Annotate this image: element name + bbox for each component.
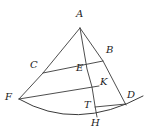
vertex-label-d: D xyxy=(127,90,135,100)
geometry-figure: A B C E K F D T H xyxy=(0,0,148,139)
geometry-canvas xyxy=(0,0,148,139)
vertex-label-f: F xyxy=(5,92,12,102)
vertex-label-h: H xyxy=(91,118,100,128)
arc-f-h-right xyxy=(19,96,143,115)
vertex-label-c: C xyxy=(30,60,38,70)
segment-a-c-f xyxy=(19,28,80,99)
vertex-label-a: A xyxy=(76,9,83,19)
vertex-label-e: E xyxy=(76,63,83,73)
vertex-label-k: K xyxy=(100,77,107,87)
segment-f-k xyxy=(19,86,99,99)
vertex-label-t: T xyxy=(84,100,91,110)
segment-c-b xyxy=(43,61,103,73)
vertex-label-b: B xyxy=(106,45,113,55)
